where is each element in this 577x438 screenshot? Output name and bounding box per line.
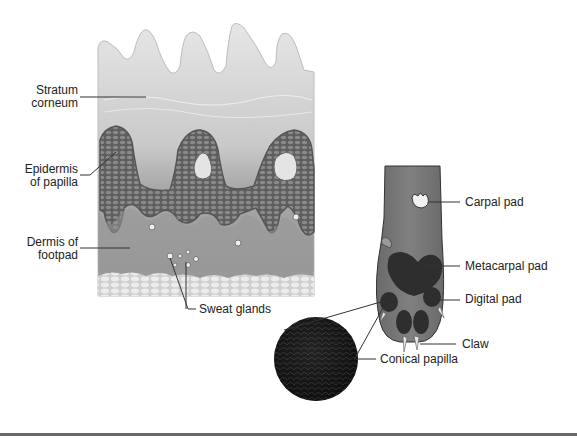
skin-section bbox=[98, 23, 314, 296]
label-claw: Claw bbox=[462, 338, 489, 351]
label-conical-papilla: Conical papilla bbox=[380, 353, 458, 366]
label-digital-pad: Digital pad bbox=[465, 293, 522, 306]
label-stratum-corneum: Stratum corneum bbox=[2, 84, 78, 110]
bottom-rule bbox=[0, 433, 577, 436]
label-metacarpal-pad: Metacarpal pad bbox=[465, 260, 548, 273]
label-line-2: footpad bbox=[2, 249, 78, 262]
label-dermis-of-footpad: Dermis of footpad bbox=[2, 236, 78, 262]
label-line-2: corneum bbox=[2, 97, 78, 110]
label-sweat-glands: Sweat glands bbox=[199, 303, 271, 316]
label-epidermis-of-papilla: Epidermis of papilla bbox=[2, 163, 78, 189]
diagram-artwork bbox=[0, 0, 577, 438]
label-carpal-pad: Carpal pad bbox=[465, 196, 524, 209]
label-line-2: of papilla bbox=[2, 176, 78, 189]
